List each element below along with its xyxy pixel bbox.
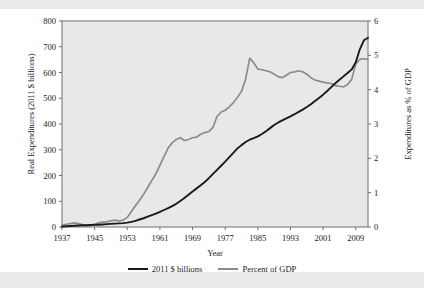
x-axis-tick-2001: 2001 — [306, 234, 340, 243]
x-axis-tick-1953: 1953 — [110, 234, 144, 243]
y-axis-right-tick-4: 4 — [374, 86, 378, 95]
black-line-swatch-icon — [128, 268, 148, 270]
y-axis-left-title: Real Expenditures (2011 $ billions) — [27, 14, 36, 214]
y-axis-right-tick-0: 0 — [374, 223, 378, 232]
x-axis-tick-1945: 1945 — [78, 234, 112, 243]
y-axis-left-tick-0: 0 — [30, 223, 56, 232]
x-axis-tick-1969: 1969 — [176, 234, 210, 243]
x-axis-tick-1977: 1977 — [208, 234, 242, 243]
gray-line-swatch-icon — [218, 268, 238, 270]
legend-entry-percent-of-gdp: Percent of GDP — [218, 264, 296, 274]
x-axis-tick-1993: 1993 — [273, 234, 307, 243]
chart-legend: 2011 $ billions Percent of GDP — [0, 264, 424, 274]
y-axis-right-tick-1: 1 — [374, 189, 378, 198]
chart-figure: 0100200300400500600700800 0123456 193719… — [0, 0, 424, 288]
x-axis-tick-1961: 1961 — [143, 234, 177, 243]
y-axis-right-tick-3: 3 — [374, 120, 378, 129]
legend-label-2011-dollars: 2011 $ billions — [152, 264, 203, 274]
y-axis-right-tick-6: 6 — [374, 17, 378, 26]
y-axis-right-tick-2: 2 — [374, 154, 378, 163]
legend-label-percent-of-gdp: Percent of GDP — [242, 264, 296, 274]
y-axis-right-tick-5: 5 — [374, 51, 378, 60]
x-axis-title: Year — [62, 249, 368, 258]
chart-plot-svg — [0, 0, 424, 288]
x-axis-tick-2009: 2009 — [339, 234, 373, 243]
x-axis-tick-1937: 1937 — [45, 234, 79, 243]
legend-entry-2011-dollars: 2011 $ billions — [128, 264, 203, 274]
x-axis-tick-1985: 1985 — [241, 234, 275, 243]
y-axis-right-title: Expenditures as % of GDP — [404, 16, 413, 212]
